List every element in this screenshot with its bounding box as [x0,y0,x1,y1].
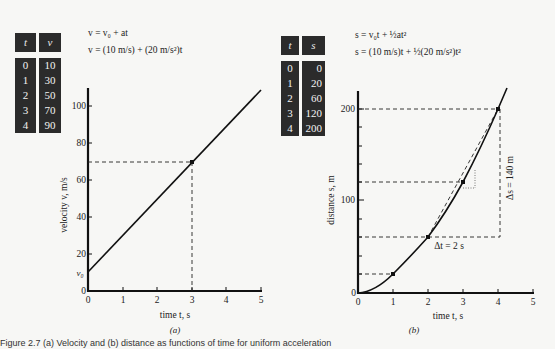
x-axis-label: time t, s [433,311,464,321]
figure-caption: Figure 2.7 (a) Velocity and (b) distance… [0,338,331,348]
svg-text:4: 4 [496,297,501,307]
guides [358,109,500,274]
velocity-line [88,90,261,272]
panel-label-a: (a) [170,325,181,335]
svg-text:100: 100 [72,101,87,111]
svg-text:60: 60 [77,175,87,185]
svg-text:80: 80 [77,138,87,148]
distance-curve [358,88,507,293]
x-tick-labels: 0 1 2 3 4 5 [356,297,536,307]
y-axis-label: velocity v, m/s [59,177,69,233]
svg-text:0: 0 [356,297,361,307]
y-axis-label: distance s, m [326,175,336,225]
svg-text:200: 200 [341,104,356,114]
x-axis-label: time t, s [160,310,191,320]
svg-text:1: 1 [391,297,396,307]
x-tick-labels: 0 1 2 3 4 5 [86,295,264,305]
delta-s-label: Δs = 140 m [505,155,515,200]
y-tick-labels: 200 100 0 [341,104,357,298]
svg-text:40: 40 [77,212,87,222]
data-point [190,160,194,164]
svg-text:1: 1 [121,295,126,305]
svg-text:3: 3 [461,297,466,307]
svg-text:100: 100 [341,195,356,205]
svg-text:4: 4 [224,295,229,305]
svg-text:5: 5 [259,295,264,305]
svg-text:2: 2 [426,297,431,307]
panel-label-b: (b) [409,325,420,335]
svg-text:20: 20 [77,249,87,259]
v0-label: v₀ [76,268,83,278]
figure-canvas: 100 80 60 40 20 0 v₀ 0 1 2 3 4 5 time t,… [0,0,555,349]
svg-text:2: 2 [155,295,160,305]
velocity-chart: 100 80 60 40 20 0 v₀ 0 1 2 3 4 5 time t,… [59,88,264,335]
svg-text:5: 5 [531,297,536,307]
svg-text:0: 0 [86,295,91,305]
svg-text:3: 3 [190,295,195,305]
y-tick-labels: 100 80 60 40 20 0 [72,101,87,296]
delta-t-label: Δt = 2 s [434,241,464,251]
distance-chart: 200 100 0 0 1 2 3 4 5 time t, s distance… [326,88,536,335]
